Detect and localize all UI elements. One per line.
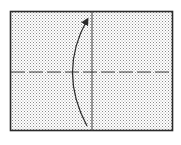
fold-diagram: [0, 0, 181, 145]
